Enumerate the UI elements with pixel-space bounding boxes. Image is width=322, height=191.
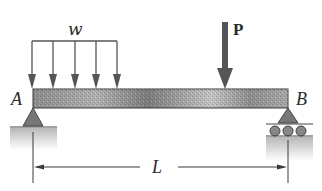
beam xyxy=(33,89,288,108)
roller-wheel xyxy=(270,126,280,136)
pin-triangle xyxy=(23,108,43,126)
point-load-label: P xyxy=(233,20,243,39)
point-load-shaft xyxy=(222,22,228,72)
span-label: L xyxy=(151,157,162,177)
roller-triangle xyxy=(278,108,298,123)
ground-b xyxy=(266,137,313,161)
beam-diagram: w P A B L xyxy=(0,0,322,191)
support-b-label: B xyxy=(296,89,307,109)
load-arrows xyxy=(28,41,121,89)
roller-wheel xyxy=(296,126,306,136)
roller-wheel xyxy=(283,126,293,136)
point-load: P xyxy=(217,20,243,89)
distributed-load-label: w xyxy=(68,19,83,39)
support-a-label: A xyxy=(10,89,23,109)
point-load-arrowhead xyxy=(217,68,233,89)
distributed-load: w xyxy=(28,19,121,89)
roller-support-b xyxy=(266,108,313,161)
span-dimension: L xyxy=(33,132,288,183)
